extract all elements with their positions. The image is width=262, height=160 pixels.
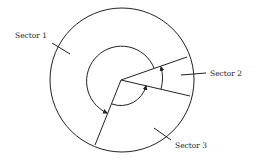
disk-sector-diagram: Sector 1 Sector 2 Sector 3 — [0, 0, 262, 160]
sector2-label: Sector 2 — [210, 69, 242, 78]
sector-boundary-lower-left — [95, 80, 121, 145]
sector1-label: Sector 1 — [15, 31, 47, 40]
sector3-leader — [154, 128, 171, 140]
sector-boundary-upper-right — [121, 57, 187, 80]
sector3-label: Sector 3 — [175, 141, 207, 150]
sector-boundary-lower-right — [121, 80, 190, 96]
sector1-angle-arc — [87, 46, 154, 113]
sector2-angle-arc — [161, 67, 163, 89]
sector1-leader — [52, 43, 70, 54]
